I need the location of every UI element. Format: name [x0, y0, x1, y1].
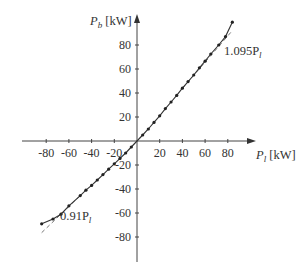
data-point: [141, 133, 144, 136]
x-axis-arrow-icon: [247, 138, 256, 144]
annotation-1095: 1.095Pl: [224, 44, 262, 60]
y-tick-label: -60: [115, 206, 131, 220]
data-point: [84, 189, 87, 192]
data-point: [198, 66, 201, 69]
y-tick-label: 60: [119, 62, 131, 76]
data-point: [164, 107, 167, 110]
y-axis-arrow-icon: [134, 14, 140, 23]
data-point: [107, 168, 110, 171]
data-point: [118, 157, 121, 160]
data-point: [169, 100, 172, 103]
annotation-091: 0.91Pl: [60, 209, 92, 225]
data-point: [152, 121, 155, 124]
data-point: [217, 43, 220, 46]
x-axis-label: Pl [kW]: [255, 148, 296, 164]
x-tick-label: 60: [199, 146, 211, 160]
data-point: [186, 80, 189, 83]
y-tick-label: 20: [119, 110, 131, 124]
data-point: [181, 87, 184, 90]
data-point: [192, 73, 195, 76]
y-tick-label: -20: [115, 158, 131, 172]
y-tick-label: 80: [119, 38, 131, 52]
x-tick-label: 40: [176, 146, 188, 160]
data-point: [147, 127, 150, 130]
data-point: [130, 145, 133, 148]
data-point: [101, 173, 104, 176]
y-tick-label: 40: [119, 86, 131, 100]
x-tick-label: 20: [154, 146, 166, 160]
data-point: [79, 194, 82, 197]
data-point: [96, 178, 99, 181]
svg-text:1.095Pl: 1.095Pl: [224, 44, 262, 60]
data-point: [158, 114, 161, 117]
svg-text:0.91Pl: 0.91Pl: [60, 209, 92, 225]
data-point: [175, 94, 178, 97]
data-point: [231, 21, 234, 24]
y-axis-label: Pb [kW]: [89, 14, 132, 30]
x-tick-label: -80: [38, 146, 54, 160]
x-tick-label: -60: [61, 146, 77, 160]
x-tick-label: -40: [84, 146, 100, 160]
data-point: [204, 60, 207, 63]
data-point: [209, 52, 212, 55]
y-tick-label: -80: [115, 230, 131, 244]
chart: -80-60-40-2020406080 80604020-20-40-60-8…: [0, 0, 307, 271]
x-tick-label: 80: [222, 146, 234, 160]
data-point: [40, 222, 43, 225]
data-point: [67, 204, 70, 207]
y-tick-label: -40: [115, 182, 131, 196]
data-point: [113, 162, 116, 165]
svg-text:Pl [kW]: Pl [kW]: [255, 148, 296, 164]
data-point: [51, 217, 54, 220]
data-point: [224, 35, 227, 38]
data-point: [124, 151, 127, 154]
svg-text:Pb [kW]: Pb [kW]: [89, 14, 132, 30]
data-point: [90, 184, 93, 187]
